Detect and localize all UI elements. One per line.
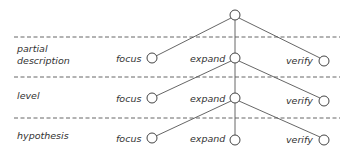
level-2-expand-label: expand	[190, 93, 226, 104]
edge-expand1-focus	[156, 61, 231, 96]
level-1-name-line-1: partial	[16, 43, 48, 54]
level-2-focus-node	[147, 93, 157, 103]
level-1-expand-node	[230, 53, 240, 63]
level-3-verify-label: verify	[286, 134, 313, 145]
level-3-verify-node	[319, 135, 329, 145]
level-2-name: level	[17, 90, 40, 101]
level-3-focus-node	[147, 133, 157, 143]
edge-expand1-verify	[239, 61, 320, 98]
level-3-name: hypothesis	[17, 130, 69, 141]
level-2-focus-label: focus	[116, 93, 141, 104]
level-2-expand-node	[230, 93, 240, 103]
level-1-focus-node	[147, 53, 157, 63]
level-2-verify-label: verify	[286, 95, 313, 106]
level-1-name-line-2: description	[17, 55, 70, 66]
level-1-verify-node	[319, 56, 329, 66]
level-1-focus-label: focus	[116, 53, 141, 64]
level-3-expand-label: expand	[190, 133, 226, 144]
search-tree-diagram: partial description focus expand verify …	[0, 0, 352, 153]
edge-root-verify	[239, 18, 320, 58]
level-2-verify-node	[319, 96, 329, 106]
edge-expand2-verify	[239, 101, 320, 137]
level-3-expand-node	[230, 135, 240, 145]
level-1-verify-label: verify	[286, 55, 313, 66]
level-3-focus-label: focus	[116, 133, 141, 144]
root-node	[230, 10, 240, 20]
level-1-expand-label: expand	[190, 53, 226, 64]
edge-expand2-focus	[156, 101, 231, 136]
